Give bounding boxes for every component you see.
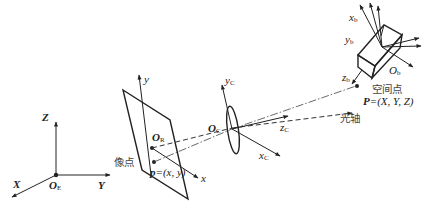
camera-z-label: zC (279, 121, 289, 134)
object-x-label: xb (348, 11, 358, 24)
camera-frame: yC zC xC OC (208, 74, 289, 162)
object-z-axis-2 (382, 46, 421, 47)
object-origin-label: Ob (389, 64, 401, 77)
space-point-label: 空间点 (372, 83, 402, 95)
object-frame: xb yb zb Ob 空间点 P=(X, Y, Z) (341, 3, 421, 108)
object-zb-axis (352, 70, 362, 84)
image-plane: y x OR 像点 p=(x, y) (114, 73, 206, 199)
object-y-label: yb (344, 33, 354, 46)
image-point-label: 像点 (114, 156, 134, 168)
projection-ray-to-point (232, 86, 356, 129)
world-x-label: X (12, 178, 21, 190)
world-z-label: Z (41, 111, 49, 123)
camera-origin-label: OC (208, 122, 221, 135)
world-frame: Z Y X OE (12, 111, 110, 197)
space-point-coords: P=(X, Y, Z) (363, 95, 414, 108)
image-y-axis (139, 75, 151, 175)
world-origin-label: OE (49, 179, 61, 192)
world-origin-dot (54, 173, 58, 177)
world-y-label: Y (98, 179, 106, 191)
camera-projection-diagram: Z Y X OE y x OR 像点 p=(x, y) 光轴 yC zC xC … (0, 0, 429, 209)
space-point-dot (355, 84, 359, 88)
camera-x-label: xC (258, 149, 269, 162)
image-x-label: x (200, 172, 206, 184)
object-z-label: zb (341, 71, 350, 84)
image-origin-label: OR (152, 131, 165, 144)
optical-axis (232, 113, 352, 128)
image-y-label: y (143, 73, 149, 85)
camera-y-label: yC (224, 74, 235, 87)
image-plane-outline (123, 90, 188, 199)
image-point-coords: p=(x, y) (149, 166, 186, 179)
optical-axis-label: 光轴 (340, 112, 360, 124)
